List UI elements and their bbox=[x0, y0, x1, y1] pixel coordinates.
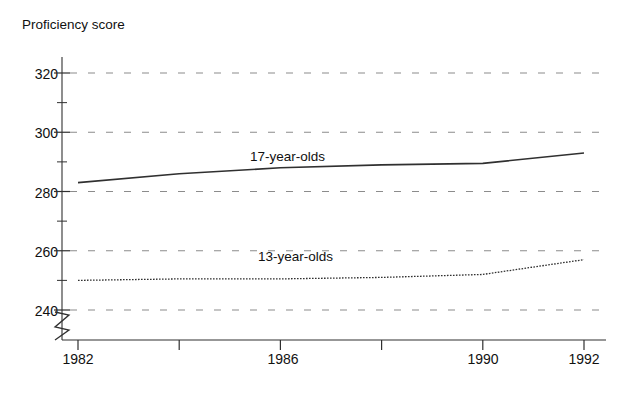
x-axis bbox=[62, 340, 606, 350]
plot-area bbox=[0, 0, 624, 402]
gridlines bbox=[70, 73, 606, 310]
y-axis bbox=[54, 57, 70, 340]
series-line-17-year-olds bbox=[78, 153, 584, 183]
series-line-13-year-olds bbox=[78, 260, 584, 281]
data-series-lines bbox=[78, 153, 584, 280]
chart-figure: Proficiency score 320 300 280 260 240 19… bbox=[0, 0, 624, 402]
